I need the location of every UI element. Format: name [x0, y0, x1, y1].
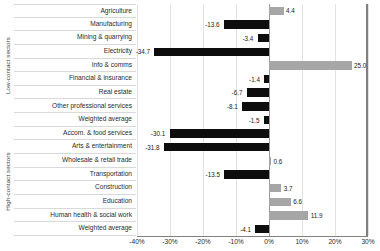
bar — [269, 7, 284, 15]
bar-value-label: 4.4 — [286, 5, 295, 16]
category-row: Financial & insurance — [14, 72, 136, 86]
bar — [269, 211, 308, 219]
category-row: Real estate — [14, 86, 136, 100]
bar-row: -1.5 — [137, 113, 366, 127]
plot-area: 4.4-13.6-3.4-34.725.0-1.4-6.7-8.1-1.5-30… — [137, 4, 368, 236]
category-axis: AgricultureManufacturingMining & quarryi… — [14, 4, 136, 236]
category-row: Weighted average — [14, 113, 136, 127]
category-label: Info & comms — [92, 62, 132, 69]
category-row: Info & comms — [14, 59, 136, 73]
x-tick-label: 0% — [264, 238, 274, 245]
bar-value-label: 25.0 — [354, 60, 366, 71]
category-label: Weighted average — [79, 225, 132, 232]
category-row: Mining & quarrying — [14, 31, 136, 45]
category-row: Manufacturing — [14, 18, 136, 32]
x-axis-ticks: -40%-30%-20%-10%0%10%20%30% — [137, 238, 368, 250]
bar — [269, 198, 291, 206]
bar — [164, 143, 269, 151]
category-label: Other professional services — [52, 103, 132, 110]
bar-row: 0.6 — [137, 154, 366, 168]
axis-group-label-low-contact: Low-contact sectors — [0, 4, 14, 126]
bar-row: 11.9 — [137, 209, 366, 223]
x-tick-label: 10% — [295, 238, 308, 245]
bar-chart: Low-contact sectors High-contact sectors… — [0, 0, 380, 251]
bar-value-label: -13.5 — [206, 169, 220, 180]
bar-row: -13.5 — [137, 168, 366, 182]
bar — [242, 102, 269, 110]
category-row: Wholesale & retail trade — [14, 154, 136, 168]
category-label: Construction — [95, 184, 132, 191]
x-tick-label: -10% — [228, 238, 243, 245]
bar — [264, 75, 269, 83]
bar — [247, 88, 269, 96]
x-tick-label: -30% — [162, 238, 177, 245]
category-label: Agriculture — [100, 8, 132, 15]
bar — [269, 61, 352, 69]
bar — [269, 157, 271, 165]
bar-value-label: 3.7 — [284, 183, 293, 194]
bar-row: 6.6 — [137, 195, 366, 209]
category-label: Weighted average — [79, 116, 132, 123]
bar — [170, 129, 269, 137]
category-row: Education — [14, 195, 136, 209]
bar-value-label: -34.7 — [136, 46, 150, 57]
bar-value-label: 0.6 — [273, 156, 282, 167]
x-tick-label: 20% — [328, 238, 341, 245]
bar — [258, 34, 269, 42]
bar-value-label: -13.6 — [205, 19, 219, 30]
category-row: Transportation — [14, 168, 136, 182]
category-label: Arts & entertainment — [72, 143, 132, 150]
category-row: Arts & entertainment — [14, 140, 136, 154]
bar — [269, 184, 281, 192]
category-label: Electricity — [104, 48, 132, 55]
bar-row: -31.8 — [137, 140, 366, 154]
gridline — [368, 4, 369, 236]
category-label: Mining & quarrying — [77, 34, 132, 41]
bar-row: -6.7 — [137, 86, 366, 100]
x-tick-label: 30% — [361, 238, 374, 245]
bar-value-label: -8.1 — [227, 101, 238, 112]
bar-row: -30.1 — [137, 127, 366, 141]
bar-value-label: -1.4 — [249, 74, 260, 85]
bar-row: 4.4 — [137, 4, 366, 18]
category-row: Other professional services — [14, 99, 136, 113]
bar-row: -13.6 — [137, 18, 366, 32]
bar-value-label: -4.1 — [240, 224, 251, 235]
category-label: Accom. & food services — [63, 130, 132, 137]
bar-value-label: -3.4 — [242, 33, 253, 44]
bar-row: -34.7 — [137, 45, 366, 59]
axis-group-label-low-contact-text: Low-contact sectors — [4, 37, 11, 94]
category-row: Construction — [14, 181, 136, 195]
category-label: Transportation — [90, 171, 132, 178]
bar-value-label: -6.7 — [232, 87, 243, 98]
bar-value-label: -1.5 — [249, 115, 260, 126]
bar-row: -3.4 — [137, 31, 366, 45]
category-row: Electricity — [14, 45, 136, 59]
category-label: Financial & insurance — [69, 75, 132, 82]
bar — [224, 170, 269, 178]
bar-row: 25.0 — [137, 59, 366, 73]
category-row: Agriculture — [14, 4, 136, 18]
bar-value-label: -30.1 — [151, 128, 165, 139]
bar-value-label: 11.9 — [311, 210, 323, 221]
bar-row: -8.1 — [137, 100, 366, 114]
bar — [154, 48, 269, 56]
category-label: Education — [103, 198, 132, 205]
category-row: Accom. & food services — [14, 127, 136, 141]
axis-group-label-high-contact: High-contact sectors — [0, 126, 14, 236]
axis-group-label-high-contact-text: High-contact sectors — [4, 152, 11, 210]
x-axis-line — [137, 236, 368, 237]
bar-row: -4.1 — [137, 222, 366, 236]
bar — [224, 20, 269, 28]
category-label: Manufacturing — [90, 21, 132, 28]
bar — [264, 116, 269, 124]
bar-row: -1.4 — [137, 72, 366, 86]
x-tick-label: -20% — [195, 238, 210, 245]
category-label: Human health & social work — [50, 212, 132, 219]
category-row: Human health & social work — [14, 209, 136, 223]
category-label: Wholesale & retail trade — [62, 157, 132, 164]
category-label: Real estate — [99, 89, 132, 96]
x-tick-label: -40% — [129, 238, 144, 245]
bar-value-label: -31.8 — [145, 142, 159, 153]
bar-row: 3.7 — [137, 181, 366, 195]
